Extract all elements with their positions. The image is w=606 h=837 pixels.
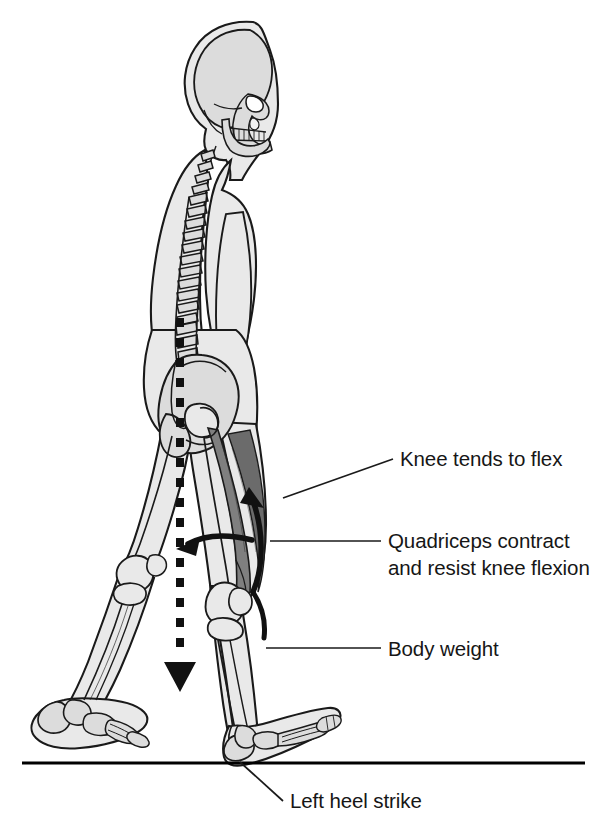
- skeleton-figure: Knee tends to flex Quadriceps contract a…: [22, 22, 590, 812]
- patella-bone: [229, 588, 252, 615]
- label-left-heel-strike: Left heel strike: [290, 789, 422, 812]
- leader-line-heel-strike: [240, 762, 283, 801]
- left-patella: [147, 555, 167, 576]
- label-quadriceps-contract-line2: and resist knee flexion: [388, 556, 590, 579]
- gait-illustration-svg: Knee tends to flex Quadriceps contract a…: [0, 0, 606, 837]
- right-tibia-plateau: [208, 618, 243, 641]
- gait-diagram-figure: Knee tends to flex Quadriceps contract a…: [0, 0, 606, 837]
- left-phalanges: [127, 732, 149, 747]
- quadriceps-arrow-tail: [253, 592, 265, 638]
- right-navicular-cuneiform: [253, 732, 281, 749]
- label-body-weight: Body weight: [388, 637, 499, 660]
- label-knee-tends-to-flex: Knee tends to flex: [400, 447, 563, 470]
- leader-line-knee-flex: [283, 459, 393, 498]
- body-weight-arrow-head: [164, 662, 196, 692]
- label-quadriceps-contract-line1: Quadriceps contract: [388, 529, 570, 552]
- left-tibia-plateau: [114, 583, 147, 605]
